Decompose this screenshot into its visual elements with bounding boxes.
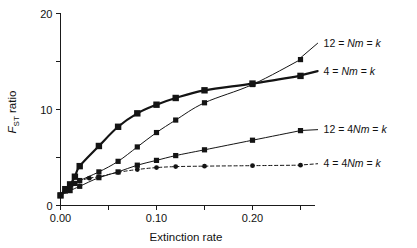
- data-point-marker: [87, 176, 92, 181]
- data-point-marker: [297, 73, 303, 79]
- chart-figure: 010200.000.100.20 12 = Nm = k4 = Nm = k1…: [0, 0, 417, 248]
- svg-text:FST ratio: FST ratio: [6, 91, 21, 134]
- data-point-marker: [154, 165, 159, 170]
- data-point-marker: [135, 163, 140, 168]
- data-point-marker: [68, 188, 73, 193]
- data-point-marker: [298, 163, 303, 168]
- y-tick-label: 10: [40, 104, 52, 116]
- series-labels: 12 = Nm = k4 = Nm = k12 = 4Nm = k4 = 4Nm…: [324, 37, 388, 169]
- data-point-marker: [173, 117, 178, 122]
- y-tick-label: 0: [46, 200, 52, 212]
- series-line-0: [61, 60, 301, 196]
- data-point-marker: [202, 100, 207, 105]
- data-point-marker: [115, 124, 121, 130]
- data-point-marker: [249, 80, 255, 86]
- data-point-marker: [97, 174, 102, 179]
- data-point-marker: [202, 147, 207, 152]
- data-point-marker: [154, 130, 159, 135]
- data-point-marker: [68, 184, 73, 189]
- data-point-marker: [201, 87, 207, 93]
- axes: 010200.000.100.20: [40, 8, 315, 224]
- x-tick-label: 0.20: [242, 212, 263, 224]
- data-point-marker: [72, 174, 78, 180]
- series-label-0: 12 = Nm = k: [324, 37, 382, 49]
- data-point-marker: [154, 158, 159, 163]
- data-point-marker: [135, 144, 140, 149]
- data-point-marker: [173, 164, 178, 169]
- data-point-marker: [96, 143, 102, 149]
- series-label-3: 4 = 4Nm = k: [324, 157, 382, 169]
- data-point-marker: [202, 164, 207, 169]
- data-point-marker: [77, 163, 83, 169]
- y-tick-label: 20: [40, 8, 52, 20]
- data-point-marker: [77, 179, 82, 184]
- data-point-marker: [116, 159, 121, 164]
- data-point-marker: [153, 102, 159, 108]
- y-axis-title: FST ratio: [6, 91, 21, 134]
- data-point-marker: [116, 170, 121, 175]
- data-point-marker: [250, 163, 255, 168]
- data-point-marker: [173, 153, 178, 158]
- data-point-marker: [134, 110, 140, 116]
- data-point-marker: [58, 193, 63, 198]
- x-tick-label: 0.10: [146, 212, 167, 224]
- data-point-marker: [96, 169, 101, 174]
- x-axis-title: Extinction rate: [150, 231, 223, 243]
- data-point-marker: [135, 167, 140, 172]
- series-label-2: 12 = 4Nm = k: [324, 123, 388, 135]
- data-point-marker: [298, 128, 303, 133]
- data-point-marker: [250, 138, 255, 143]
- series-markers: [57, 57, 303, 199]
- x-tick-label: 0.00: [50, 212, 71, 224]
- series-label-1: 4 = Nm = k: [324, 65, 376, 77]
- data-point-marker: [298, 57, 303, 62]
- data-point-marker: [77, 184, 82, 189]
- series-line-2: [61, 131, 301, 196]
- fst-extinction-line-chart: 010200.000.100.20 12 = Nm = k4 = Nm = k1…: [0, 0, 417, 248]
- data-point-marker: [173, 95, 179, 101]
